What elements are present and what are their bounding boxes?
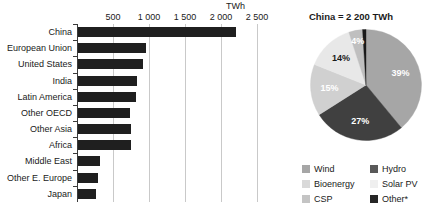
pie-chart-title: China = 2 200 TWh — [266, 11, 436, 22]
bar-chart-tick-label: 1 000 — [138, 12, 161, 22]
legend-label: CSP — [314, 194, 333, 204]
bar-chart-category-label: Middle East — [0, 156, 72, 166]
bar-chart-tick-label: 500 — [105, 12, 120, 22]
legend-label: Wind — [314, 164, 335, 174]
bar-chart-row: China — [0, 24, 266, 40]
bar-chart-axis-tickmark — [73, 89, 77, 90]
bar-chart-rows: ChinaEuropean UnionUnited StatesIndiaLat… — [0, 24, 266, 202]
bar-chart-bar — [78, 156, 100, 166]
legend-item[interactable]: CSP — [302, 194, 370, 204]
legend-label: Bioenergy — [314, 179, 355, 189]
bar-chart-bar — [78, 43, 146, 53]
bar-chart-bar — [78, 124, 131, 134]
bar-chart-row: European Union — [0, 40, 266, 56]
bar-chart-category-label: Other OECD — [0, 108, 72, 118]
bar-chart-axis-tickmark — [73, 24, 77, 25]
legend-item[interactable]: Other* — [370, 194, 436, 204]
bar-chart-axis-tickmark — [73, 170, 77, 171]
legend-label: Other* — [382, 194, 408, 204]
pie-slice-percent-label: 39% — [391, 68, 409, 78]
bar-chart-axis-tickmark — [73, 121, 77, 122]
pie-slice-percent-label: 14% — [332, 53, 350, 63]
bar-chart-tick-label: 2 500 — [246, 12, 269, 22]
bar-chart-axis-tickmark — [73, 73, 77, 74]
legend-label: Hydro — [382, 164, 406, 174]
bar-chart-category-label: China — [0, 27, 72, 37]
bar-chart-axis-tickmark — [73, 137, 77, 138]
pie-slice-percent-label: 27% — [351, 116, 369, 126]
bar-chart-row: India — [0, 73, 266, 89]
bar-chart-category-label: United States — [0, 59, 72, 69]
bar-chart-x-axis-ticks: 5001 0001 5002 0002 500 — [77, 12, 257, 24]
legend-label: Solar PV — [382, 179, 418, 189]
legend-swatch-icon — [302, 195, 310, 203]
pie-chart-legend: WindHydroBioenergySolar PVCSPOther* — [302, 161, 436, 206]
bar-chart-category-label: Latin America — [0, 92, 72, 102]
legend-swatch-icon — [370, 180, 378, 188]
pie-chart-panel: China = 2 200 TWh 39%27%15%14%4% WindHyd… — [266, 0, 436, 216]
legend-item[interactable]: Solar PV — [370, 179, 436, 189]
bar-chart-row: United States — [0, 56, 266, 72]
legend-swatch-icon — [370, 165, 378, 173]
legend-swatch-icon — [302, 165, 310, 173]
legend-item[interactable]: Wind — [302, 164, 370, 174]
bar-chart-axis-tickmark — [73, 105, 77, 106]
legend-item[interactable]: Bioenergy — [302, 179, 370, 189]
legend-item[interactable]: Hydro — [370, 164, 436, 174]
chart-figure: TWh 5001 0001 5002 0002 500 ChinaEuropea… — [0, 0, 436, 216]
bar-chart-panel: TWh 5001 0001 5002 0002 500 ChinaEuropea… — [0, 0, 266, 216]
bar-chart-row: Other Asia — [0, 121, 266, 137]
bar-chart-tick-label: 2 000 — [210, 12, 233, 22]
bar-chart-axis-tickmark — [73, 56, 77, 57]
bar-chart-bar — [78, 59, 143, 69]
bar-chart-category-label: Africa — [0, 140, 72, 150]
bar-chart-bar — [78, 92, 136, 102]
pie-slice-percent-label: 4% — [351, 36, 364, 46]
bar-chart-unit-label: TWh — [226, 1, 245, 11]
bar-chart-bar — [78, 27, 236, 37]
legend-swatch-icon — [370, 195, 378, 203]
legend-swatch-icon — [302, 180, 310, 188]
bar-chart-row: Other E. Europe — [0, 170, 266, 186]
bar-chart-bar — [78, 140, 131, 150]
bar-chart-row: Middle East — [0, 153, 266, 169]
bar-chart-category-label: Japan — [0, 189, 72, 199]
bar-chart-bar — [78, 189, 96, 199]
bar-chart-category-label: India — [0, 76, 72, 86]
bar-chart-category-label: Other E. Europe — [0, 173, 72, 183]
pie-slice-percent-label: 15% — [321, 83, 339, 93]
bar-chart-row: Japan — [0, 186, 266, 202]
bar-chart-bar — [78, 173, 98, 183]
bar-chart-bar — [78, 108, 130, 118]
bar-chart-row: Other OECD — [0, 105, 266, 121]
bar-chart-axis-tickmark — [73, 153, 77, 154]
bar-chart-bar — [78, 76, 137, 86]
pie-chart-graphic: 39%27%15%14%4% — [310, 29, 422, 141]
bar-chart-category-label: European Union — [0, 43, 72, 53]
bar-chart-tick-label: 1 500 — [174, 12, 197, 22]
bar-chart-axis-tickmark — [73, 40, 77, 41]
bar-chart-row: Africa — [0, 137, 266, 153]
bar-chart-axis-tickmark — [73, 186, 77, 187]
bar-chart-row: Latin America — [0, 89, 266, 105]
bar-chart-category-label: Other Asia — [0, 124, 72, 134]
